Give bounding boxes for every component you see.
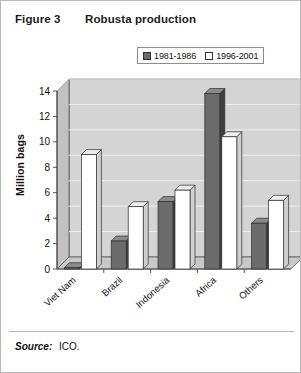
legend-entry-series-1: 1981-1986: [143, 51, 196, 61]
y-tick-label: 14: [39, 86, 51, 97]
bar-brazil-series-2: [128, 202, 148, 269]
legend-swatch-icon-series-1: [143, 52, 151, 60]
figure-title: Robusta production: [85, 13, 196, 25]
x-category-label: Viet Nam: [41, 274, 77, 308]
legend-label-series-2: 1996-2001: [216, 51, 258, 61]
y-tick-label: 12: [39, 111, 51, 122]
y-tick-label: 6: [44, 187, 50, 198]
source-label: Source:: [15, 341, 52, 352]
bar-viet-nam-series-2: [81, 150, 101, 269]
y-tick-label: 8: [44, 162, 50, 173]
x-category-label: Africa: [193, 274, 219, 299]
footer-divider: [9, 331, 294, 332]
legend-entry-series-2: 1996-2001: [205, 51, 258, 61]
chart-legend: 1981-1986 1996-2001: [137, 47, 264, 64]
figure-footer: Source: ICO.: [1, 331, 301, 361]
legend-swatch-icon-series-2: [205, 52, 213, 60]
bar-africa-series-2: [222, 132, 242, 269]
y-tick-label: 10: [39, 136, 51, 147]
figure-card: Figure 3 Robusta production 1981-1986 19…: [0, 0, 301, 373]
x-category-label: Indonesia: [133, 274, 172, 310]
x-category-label: Brazil: [100, 274, 125, 298]
figure-label: Figure 3: [15, 13, 61, 25]
y-tick-label: 2: [44, 238, 50, 249]
y-tick-label: 0: [44, 264, 50, 275]
source-value: ICO.: [59, 341, 80, 352]
y-tick-label: 4: [44, 213, 50, 224]
bar-others-series-2: [269, 195, 289, 269]
chart-plot-area: Million bags 02468101214Viet NamBrazilIn…: [1, 63, 301, 321]
legend-label-series-1: 1981-1986: [154, 51, 196, 61]
plot-left-wall: [57, 79, 69, 269]
bar-indonesia-series-2: [175, 185, 195, 269]
x-category-label: Others: [236, 274, 265, 301]
figure-header: Figure 3 Robusta production: [1, 13, 301, 35]
bar-chart-svg: 02468101214Viet NamBrazilIndonesiaAfrica…: [1, 63, 301, 321]
